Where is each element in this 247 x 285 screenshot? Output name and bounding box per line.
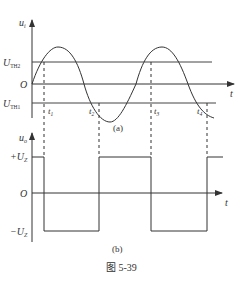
hysteresis-comparator-waveform-diagram: ui t UTH2 O UTH1 t1 t2 t3 t4 (a) uo t +U… <box>0 0 247 285</box>
panel-b: uo t +UZ O −UZ (b) <box>10 132 228 254</box>
uth1-label: UTH1 <box>3 98 21 110</box>
panel-b-y-label: uo <box>19 132 27 144</box>
panel-a: ui t UTH2 O UTH1 t1 t2 t3 t4 (a) <box>3 17 234 157</box>
panel-b-x-label: t <box>225 197 228 208</box>
panel-a-x-label: t <box>230 88 233 99</box>
panel-b-caption: (b) <box>112 244 123 254</box>
plus-uz-label: +UZ <box>10 151 28 163</box>
t1-label: t1 <box>48 106 54 117</box>
panel-a-caption: (a) <box>113 123 123 133</box>
t3-label: t3 <box>154 106 160 117</box>
output-square-wave <box>32 157 223 231</box>
figure-caption: 图 5-39 <box>106 262 137 273</box>
panel-a-y-label: ui <box>19 17 26 29</box>
uth2-label: UTH2 <box>3 57 21 69</box>
minus-uz-label: −UZ <box>10 226 28 238</box>
origin-a-label: O <box>20 79 27 90</box>
origin-b-label: O <box>20 188 27 199</box>
